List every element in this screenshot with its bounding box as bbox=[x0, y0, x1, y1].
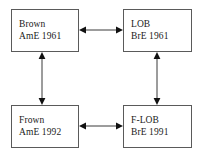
corpus-name-flob: F-LOB bbox=[131, 115, 159, 127]
double-arrow-horizontal-icon-frown-flob bbox=[79, 118, 123, 134]
corpus-box-frown: Frown AmE 1992 bbox=[11, 105, 79, 148]
corpus-meta-flob: BrE 1991 bbox=[131, 127, 168, 139]
corpus-box-flob: F-LOB BrE 1991 bbox=[123, 105, 192, 148]
corpus-meta-lob: BrE 1961 bbox=[131, 31, 168, 43]
corpus-meta-frown: AmE 1992 bbox=[19, 127, 61, 139]
double-arrow-vertical-icon-lob-flob bbox=[149, 52, 165, 105]
corpus-box-lob: LOB BrE 1961 bbox=[123, 9, 192, 52]
corpus-meta-brown: AmE 1961 bbox=[19, 31, 61, 43]
corpus-box-brown: Brown AmE 1961 bbox=[11, 9, 79, 52]
double-arrow-vertical-icon-brown-frown bbox=[34, 52, 50, 105]
corpus-family-diagram: Brown AmE 1961 LOB BrE 1961 Frown AmE 19… bbox=[0, 0, 204, 155]
corpus-name-brown: Brown bbox=[19, 19, 45, 31]
double-arrow-horizontal-icon-brown-lob bbox=[79, 22, 123, 38]
corpus-name-lob: LOB bbox=[131, 19, 150, 31]
corpus-name-frown: Frown bbox=[19, 115, 44, 127]
